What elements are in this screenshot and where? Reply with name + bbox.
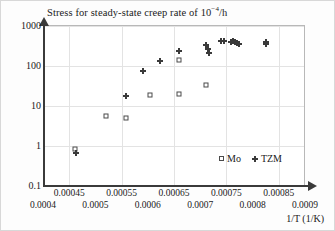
x-tick-label-major: 0.0005: [82, 200, 108, 210]
x-tick-label-major: 0.0008: [240, 200, 266, 210]
x-axis-arrow-icon: [308, 181, 317, 191]
y-tick-label: 10: [3, 100, 41, 111]
x-tick-label-major: 0.0009: [292, 200, 318, 210]
gridline-horizontal: [43, 66, 304, 67]
diamond-marker-icon: [252, 156, 258, 162]
chart-title-suffix: /h: [219, 7, 227, 18]
data-point-tzm: [140, 68, 146, 74]
legend-label-mo: Mo: [227, 153, 241, 164]
x-tick-label-minor: 0.00065: [159, 188, 190, 198]
data-point-mo: [204, 83, 209, 88]
data-point-tzm: [203, 42, 209, 48]
open-square-marker-icon: [219, 156, 224, 161]
data-point-tzm: [228, 39, 234, 45]
data-point-tzm: [263, 39, 269, 45]
x-tick-label-minor: 0.00075: [211, 188, 242, 198]
y-tick-label: 1: [3, 140, 41, 151]
data-point-mo: [176, 92, 181, 97]
y-axis-ticks: 10001001010.1: [1, 1, 41, 231]
x-tick-label-major: 0.0004: [30, 200, 56, 210]
data-point-tzm: [263, 41, 269, 47]
chart-figure: Stress for steady-state creep rate of 10…: [0, 0, 335, 231]
data-point-tzm: [232, 39, 238, 45]
y-tick-label: 0.1: [3, 180, 41, 191]
y-tick-label: 1000: [3, 20, 41, 31]
data-point-mo: [124, 116, 129, 121]
x-axis-line: [43, 185, 310, 187]
x-tick-label-minor: 0.00055: [106, 188, 137, 198]
legend-label-tzm: TZM: [261, 153, 282, 164]
chart-legend: Mo TZM: [219, 153, 282, 164]
data-point-tzm: [73, 150, 79, 156]
data-point-tzm: [234, 40, 240, 46]
data-point-tzm: [230, 38, 236, 44]
legend-item-tzm: TZM: [252, 153, 282, 164]
x-tick-label-major: 0.0006: [135, 200, 161, 210]
data-point-tzm: [157, 58, 163, 64]
data-point-mo: [104, 114, 109, 119]
data-point-tzm: [206, 50, 212, 56]
y-axis-line: [43, 23, 45, 187]
data-point-mo: [147, 93, 152, 98]
data-point-tzm: [218, 38, 224, 44]
gridline-horizontal: [43, 26, 304, 27]
data-point-tzm: [236, 41, 242, 47]
gridline-horizontal: [43, 146, 304, 147]
chart-title-prefix: Stress for steady-state creep rate of 10: [47, 7, 211, 18]
data-point-mo: [72, 146, 77, 151]
data-point-tzm: [176, 48, 182, 54]
x-tick-label-minor: 0.00085: [263, 188, 294, 198]
x-tick-label-major: 0.0007: [187, 200, 213, 210]
chart-title: Stress for steady-state creep rate of 10…: [47, 5, 227, 18]
y-tick-label: 100: [3, 60, 41, 71]
x-tick-label-minor: 0.00045: [54, 188, 85, 198]
data-point-tzm: [123, 93, 129, 99]
data-point-mo: [176, 58, 181, 63]
gridline-horizontal: [43, 106, 304, 107]
data-point-tzm: [205, 46, 211, 52]
x-axis-label: 1/T (1/K): [286, 213, 324, 224]
legend-item-mo: Mo: [219, 153, 241, 164]
chart-title-exponent: −4: [211, 5, 219, 13]
